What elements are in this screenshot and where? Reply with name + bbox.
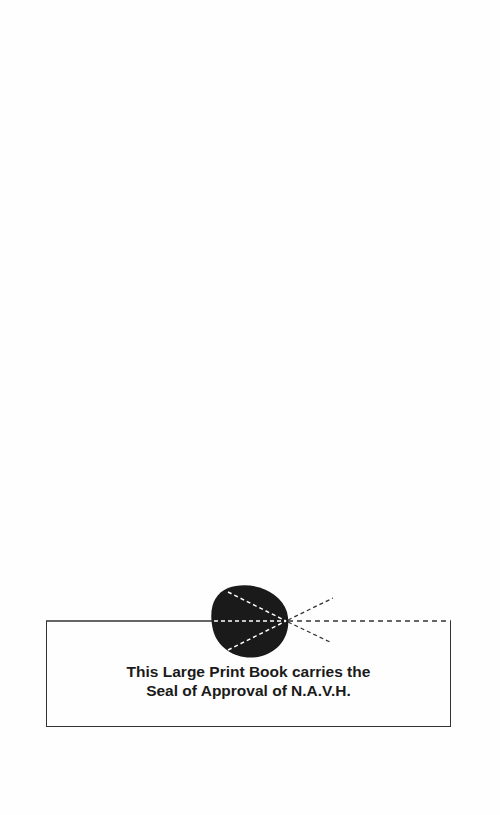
book-page: This Large Print Book carries the Seal o… bbox=[0, 0, 500, 815]
notice-line-1: This Large Print Book carries the bbox=[46, 662, 451, 681]
seal-notice-text: This Large Print Book carries the Seal o… bbox=[46, 662, 451, 700]
notice-line-2: Seal of Approval of N.A.V.H. bbox=[46, 681, 451, 700]
